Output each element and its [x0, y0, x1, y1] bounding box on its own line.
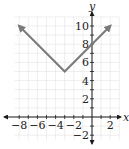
y-tick-label: 10 — [75, 20, 89, 33]
x-tick-label: −6 — [29, 119, 45, 132]
graph: xy−8−6−4−22−2246810 — [0, 0, 129, 149]
y-tick-label: 4 — [82, 75, 89, 88]
y-tick-label: 2 — [82, 93, 89, 106]
y-tick-label: 6 — [82, 56, 89, 69]
y-axis-label: y — [88, 0, 96, 13]
y-tick-label: −2 — [73, 129, 89, 142]
x-tick-label: −4 — [47, 119, 63, 132]
tick-labels: xy−8−6−4−22−2246810 — [11, 0, 129, 142]
x-axis-label: x — [123, 111, 129, 124]
x-tick-label: 2 — [107, 119, 114, 132]
x-tick-label: −8 — [11, 119, 27, 132]
